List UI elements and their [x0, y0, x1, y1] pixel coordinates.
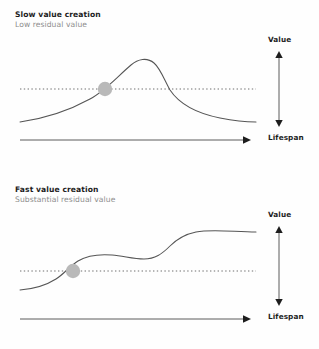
value-curve: [20, 231, 256, 290]
chart-slow-value-creation: [0, 0, 319, 174]
up-arrow-icon: [275, 51, 282, 58]
right-arrow-icon: [243, 315, 251, 323]
down-arrow-icon: [275, 120, 282, 127]
lifespan-axis-label: Lifespan: [268, 133, 304, 142]
value-axis-label: Value: [268, 210, 291, 219]
down-arrow-icon: [275, 299, 282, 306]
chart-fast-value-creation: [0, 175, 319, 349]
circle-marker-icon: [98, 82, 112, 96]
lifespan-axis-label: Lifespan: [268, 312, 304, 321]
value-axis-label: Value: [268, 35, 291, 44]
value-curve: [20, 59, 256, 122]
up-arrow-icon: [275, 226, 282, 233]
panel-slow-value-creation: Slow value creation Low residual value V…: [0, 0, 319, 174]
right-arrow-icon: [243, 136, 251, 144]
circle-marker-icon: [66, 264, 80, 278]
panel-fast-value-creation: Fast value creation Substantial residual…: [0, 175, 319, 349]
